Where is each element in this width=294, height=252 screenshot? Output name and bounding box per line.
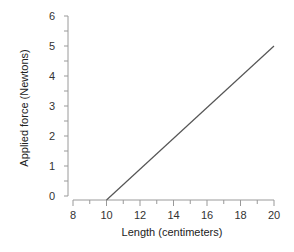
y-tick-label: 0 [49,190,55,202]
x-axis-label: Length (centimeters) [122,226,223,238]
y-axis-label: Applied force (Newtons) [18,49,30,166]
x-tick-label: 16 [201,209,213,221]
y-tick-label: 2 [49,130,55,142]
plot-area [107,46,275,200]
data-line [107,46,275,200]
y-tick-label: 6 [49,10,55,22]
y-tick-label: 5 [49,40,55,52]
x-tick-label: 8 [70,209,76,221]
x-axis: 8101214161820 [70,200,280,221]
x-tick-label: 14 [167,209,179,221]
y-axis: 0123456 [49,10,68,202]
y-tick-label: 1 [49,160,55,172]
x-tick-label: 10 [100,209,112,221]
y-tick-label: 3 [49,100,55,112]
x-tick-label: 20 [268,209,280,221]
x-tick-label: 12 [134,209,146,221]
chart: 0123456 8101214161820 Length (centimeter… [0,0,294,252]
x-tick-label: 18 [234,209,246,221]
y-tick-label: 4 [49,70,55,82]
